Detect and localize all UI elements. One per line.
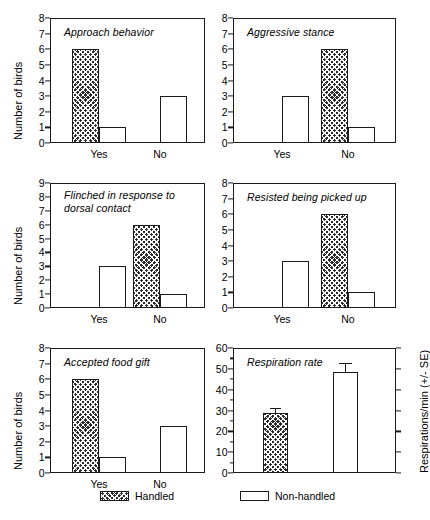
bar-nonhandled-yes	[99, 457, 126, 473]
panel-resisted-picked-up: Resisted being picked up 8 7 6 5 4 3 2 1…	[233, 183, 396, 308]
y-tick-mark	[45, 238, 51, 239]
y-tick-mark	[45, 64, 51, 65]
y-tick-mark	[45, 394, 51, 395]
y-tick-mark	[228, 96, 234, 97]
y-tick-mark	[228, 198, 234, 199]
panel-respiration-rate: Respiration rate Respirations/min (+/- S…	[233, 348, 396, 473]
x-tick-label-yes: Yes	[90, 478, 107, 490]
y-tick-mark-right	[396, 410, 401, 411]
bar-nonhandled-no	[160, 426, 187, 473]
y-tick-mark-right	[396, 452, 401, 453]
bar-nonhandled-no	[348, 292, 375, 308]
bar-nonhandled-yes	[99, 127, 126, 143]
y-minor-tick-mark	[230, 462, 233, 463]
bar-handled-no	[133, 142, 160, 143]
x-tick-label-no: No	[153, 478, 166, 490]
bar-handled-no	[321, 49, 348, 143]
bar-handled-yes	[255, 307, 282, 308]
y-tick-mark	[45, 127, 51, 128]
bar-handled-respiration	[263, 413, 288, 473]
y-tick-mark	[228, 368, 234, 369]
error-bar-cap-handled	[270, 408, 281, 409]
y-tick-mark	[45, 142, 51, 143]
y-tick-mark	[45, 280, 51, 281]
x-tick-label-no: No	[153, 148, 166, 160]
error-bar-nonhandled	[345, 364, 346, 372]
y-tick-mark	[228, 49, 234, 50]
y-tick-mark	[45, 294, 51, 295]
bar-handled-yes	[72, 379, 99, 473]
y-tick-mark	[228, 245, 234, 246]
y-tick-mark-right	[396, 389, 401, 390]
bar-handled-no	[133, 225, 160, 308]
y-tick-mark	[228, 127, 234, 128]
y-tick-mark	[228, 80, 234, 81]
error-bar-handled	[275, 409, 276, 413]
y-tick-mark	[228, 292, 234, 293]
y-tick-mark	[45, 379, 51, 380]
bar-handled-no	[321, 214, 348, 308]
y-axis-title: Number of birds	[12, 227, 24, 305]
x-tick-label-no: No	[153, 313, 166, 325]
y-tick-mark	[228, 452, 234, 453]
bar-nonhandled-no	[160, 294, 187, 308]
y-tick-mark	[228, 17, 234, 18]
y-tick-mark	[45, 96, 51, 97]
bar-handled-yes	[72, 49, 99, 143]
y-tick-mark	[45, 426, 51, 427]
y-tick-mark	[45, 111, 51, 112]
panel-accepted-food-gift: Number of birds Accepted food gift 8 7 6…	[50, 348, 205, 473]
y-tick-mark-right	[396, 368, 401, 369]
y-tick-mark	[228, 64, 234, 65]
bar-handled-yes	[72, 307, 99, 308]
y-tick-mark	[45, 441, 51, 442]
y-axis-title: Number of birds	[12, 392, 24, 470]
y-minor-tick-mark	[230, 358, 233, 359]
y-tick-mark-right	[396, 347, 401, 348]
y-tick-mark	[228, 261, 234, 262]
y-minor-tick-mark	[230, 399, 233, 400]
y-tick-mark	[228, 33, 234, 34]
y-tick-mark	[45, 307, 51, 308]
y-tick-mark	[228, 347, 234, 348]
error-bar-cap-nonhandled	[339, 363, 352, 364]
bar-nonhandled-yes	[282, 261, 309, 308]
y-tick-mark	[45, 266, 51, 267]
bar-nonhandled-yes	[99, 266, 126, 308]
y-tick-mark	[45, 457, 51, 458]
bar-nonhandled-respiration	[333, 372, 358, 473]
legend-item-non-handled: Non-handled	[240, 490, 335, 502]
y-minor-tick-mark	[230, 420, 233, 421]
y-axis-title: Number of birds	[12, 62, 24, 140]
y-tick-mark-right	[396, 472, 401, 473]
legend-swatch-handled-icon	[100, 491, 129, 501]
bar-nonhandled-no	[348, 127, 375, 143]
y-tick-mark	[228, 111, 234, 112]
y-tick-mark	[228, 214, 234, 215]
y-tick-mark	[45, 363, 51, 364]
y-minor-tick-mark	[230, 379, 233, 380]
legend-label-handled: Handled	[135, 490, 174, 502]
x-tick-label-yes: Yes	[273, 148, 290, 160]
panel-aggressive-stance: Aggressive stance 8 7 6 5 4 3 2 1 0 Yes …	[233, 18, 396, 143]
bar-nonhandled-yes	[282, 96, 309, 143]
y-tick-mark-right	[396, 431, 401, 432]
bar-nonhandled-no	[160, 96, 187, 143]
bar-handled-yes	[255, 142, 282, 143]
x-tick-label-no: No	[341, 313, 354, 325]
bar-handled-no	[133, 472, 160, 473]
y-axis-title-right: Respirations/min (+/- SE)	[418, 350, 430, 473]
y-tick-mark	[45, 410, 51, 411]
y-tick-mark	[228, 389, 234, 390]
y-tick-mark	[228, 410, 234, 411]
legend-item-handled: Handled	[100, 490, 174, 502]
legend-swatch-non-handled-icon	[240, 491, 269, 501]
y-tick-mark	[228, 276, 234, 277]
y-tick-mark	[228, 472, 234, 473]
y-tick-mark	[228, 229, 234, 230]
x-tick-label-yes: Yes	[273, 313, 290, 325]
y-tick-mark	[228, 182, 234, 183]
y-tick-mark	[45, 347, 51, 348]
x-tick-label-no: No	[341, 148, 354, 160]
